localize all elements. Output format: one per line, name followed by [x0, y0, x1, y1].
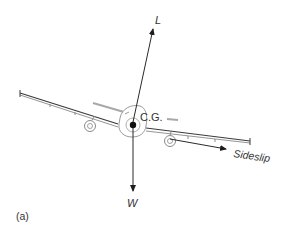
- left-engine: [85, 116, 96, 132]
- cg-dot: [130, 122, 136, 128]
- sideslip-label: Sideslip: [233, 147, 271, 164]
- aircraft-front-view: [20, 90, 250, 147]
- panel-label: (a): [16, 210, 29, 222]
- cg-label: C.G.: [140, 111, 163, 123]
- tailplane: [93, 103, 124, 112]
- sideslip-force-diagram: L W C.G. Sideslip (a): [0, 0, 291, 244]
- lift-label: L: [155, 14, 161, 26]
- weight-label: W: [127, 197, 139, 209]
- right-wing: [146, 128, 250, 145]
- left-wing: [20, 90, 118, 127]
- tailplane-right: [167, 119, 178, 120]
- sideslip-vector-arrow: [170, 139, 226, 149]
